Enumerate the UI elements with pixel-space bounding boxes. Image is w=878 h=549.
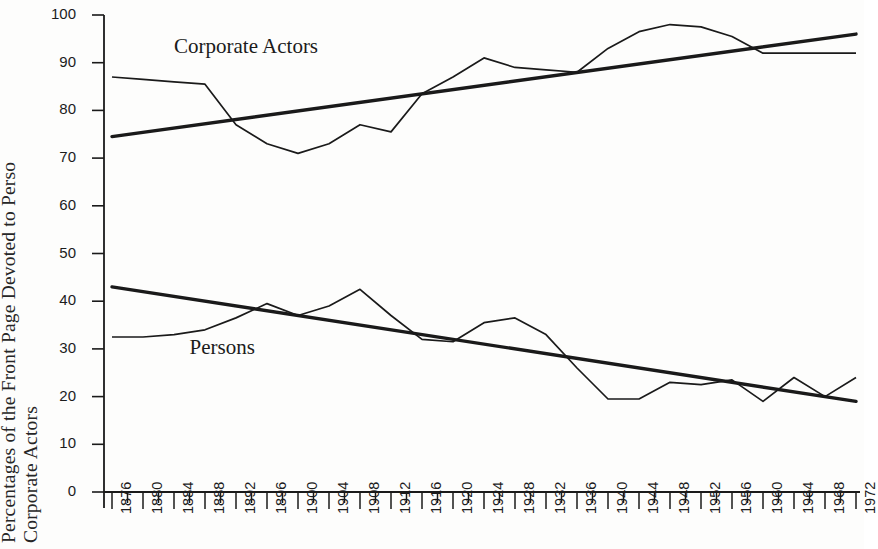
x-tick-label-1912: 1912 <box>397 482 413 514</box>
x-tick-label-1948: 1948 <box>676 482 692 514</box>
x-tick-label-1960: 1960 <box>769 482 785 514</box>
y-tick-label-70: 70 <box>32 148 76 165</box>
x-tick-label-1876: 1876 <box>118 482 134 514</box>
y-tick-label-30: 30 <box>32 339 76 356</box>
x-tick-label-1892: 1892 <box>242 482 258 514</box>
series-label-persons: Persons <box>190 335 255 360</box>
y-tick-label-0: 0 <box>32 482 76 499</box>
x-tick-label-1956: 1956 <box>738 482 754 514</box>
x-tick-label-1904: 1904 <box>335 482 351 514</box>
x-tick-label-1932: 1932 <box>552 482 568 514</box>
y-tick-label-10: 10 <box>32 434 76 451</box>
x-tick-label-1924: 1924 <box>490 482 506 514</box>
axis-group <box>104 15 860 508</box>
x-tick-label-1944: 1944 <box>645 482 661 514</box>
x-tick-label-1884: 1884 <box>180 482 196 514</box>
y-tick-label-50: 50 <box>32 244 76 261</box>
x-tick-label-1968: 1968 <box>831 482 847 514</box>
y-tick-label-100: 100 <box>32 5 76 22</box>
y-tick-label-90: 90 <box>32 53 76 70</box>
series-label-corporate-actors: Corporate Actors <box>174 34 318 59</box>
y-tick-label-40: 40 <box>32 291 76 308</box>
x-tick-label-1880: 1880 <box>149 482 165 514</box>
x-tick-label-1920: 1920 <box>459 482 475 514</box>
x-tick-label-1928: 1928 <box>521 482 537 514</box>
x-tick-label-1964: 1964 <box>800 482 816 514</box>
y-tick-label-80: 80 <box>32 100 76 117</box>
x-tick-label-1916: 1916 <box>428 482 444 514</box>
x-tick-label-1900: 1900 <box>304 482 320 514</box>
x-tick-label-1972: 1972 <box>862 482 878 514</box>
x-tick-label-1896: 1896 <box>273 482 289 514</box>
y-tick-label-20: 20 <box>32 387 76 404</box>
y-tick-label-60: 60 <box>32 196 76 213</box>
x-tick-label-1940: 1940 <box>614 482 630 514</box>
x-tick-label-1888: 1888 <box>211 482 227 514</box>
x-tick-label-1908: 1908 <box>366 482 382 514</box>
x-tick-label-1952: 1952 <box>707 482 723 514</box>
x-tick-label-1936: 1936 <box>583 482 599 514</box>
tick-marks-group <box>92 15 856 509</box>
